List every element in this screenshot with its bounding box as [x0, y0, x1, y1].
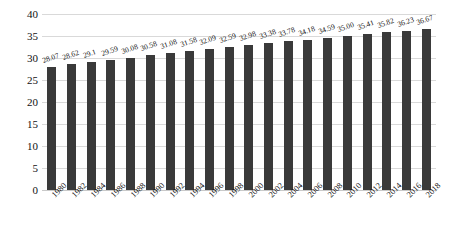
- bar: [47, 67, 56, 191]
- y-axis-tick: 25: [14, 75, 38, 86]
- y-axis-tick: 10: [14, 141, 38, 152]
- y-axis-tick: 15: [14, 119, 38, 130]
- bar-value-label: 35.82: [376, 17, 395, 30]
- bar-value-label: 31.58: [179, 36, 198, 49]
- bar-chart: 40 35 30 25 20 15 10 5 0 28.0728.6229.12…: [0, 0, 462, 232]
- x-label-slot: 2016: [397, 192, 417, 232]
- bar: [422, 29, 431, 190]
- bar: [67, 64, 76, 190]
- y-axis-tick: 5: [14, 163, 38, 174]
- x-label-slot: 2018: [416, 192, 436, 232]
- bar-slot: 30.08: [121, 14, 141, 190]
- bar-slot: 35.82: [377, 14, 397, 190]
- bar-slot: 28.07: [42, 14, 62, 190]
- x-label-slot: 2012: [357, 192, 377, 232]
- bar-value-label: 33.78: [278, 26, 297, 39]
- y-axis-tick: 30: [14, 53, 38, 64]
- x-label-slot: 1984: [81, 192, 101, 232]
- x-label-slot: 1982: [62, 192, 82, 232]
- bar: [402, 31, 411, 190]
- x-label-slot: 2014: [377, 192, 397, 232]
- x-label-slot: 2002: [259, 192, 279, 232]
- x-label-slot: 1980: [42, 192, 62, 232]
- x-label-slot: 1988: [121, 192, 141, 232]
- bar-slot: 33.38: [259, 14, 279, 190]
- y-axis-tick: 20: [14, 97, 38, 108]
- bar-value-label: 28.62: [61, 49, 80, 62]
- bar-value-label: 29.1: [82, 48, 97, 60]
- bar-slot: 35.41: [357, 14, 377, 190]
- bar-slot: 35.00: [338, 14, 358, 190]
- bar-value-label: 32.98: [238, 30, 257, 43]
- bar-value-label: 30.58: [140, 40, 159, 53]
- bar-slot: 29.1: [81, 14, 101, 190]
- bar-value-label: 34.59: [317, 23, 336, 36]
- bar-slot: 31.58: [180, 14, 200, 190]
- bar-value-label: 31.08: [160, 38, 179, 51]
- x-label-slot: 2006: [298, 192, 318, 232]
- bar: [382, 32, 391, 190]
- y-axis-tick: 35: [14, 31, 38, 42]
- bar-slot: 31.08: [160, 14, 180, 190]
- x-label-slot: 1998: [219, 192, 239, 232]
- bar: [225, 47, 234, 190]
- bar-value-label: 33.38: [258, 28, 277, 41]
- x-label-slot: 1990: [141, 192, 161, 232]
- bar-slot: 34.18: [298, 14, 318, 190]
- x-label-slot: 2004: [278, 192, 298, 232]
- bar-value-label: 34.18: [297, 24, 316, 37]
- bar-value-label: 32.59: [219, 31, 238, 44]
- x-label-slot: 2000: [239, 192, 259, 232]
- x-label-slot: 1996: [200, 192, 220, 232]
- y-axis-tick: 0: [14, 185, 38, 196]
- bar: [284, 41, 293, 190]
- bar: [185, 51, 194, 190]
- y-axis-tick: 40: [14, 9, 38, 20]
- bar-value-label: 35.00: [337, 21, 356, 34]
- bar: [264, 43, 273, 190]
- x-label-slot: 2010: [338, 192, 358, 232]
- bar-slot: 32.09: [200, 14, 220, 190]
- bar: [244, 45, 253, 190]
- plot-area: 28.0728.6229.129.5930.0830.5831.0831.583…: [42, 14, 436, 190]
- x-label-slot: 1992: [160, 192, 180, 232]
- bar: [126, 58, 135, 190]
- bar: [303, 40, 312, 190]
- bar-slot: 32.59: [219, 14, 239, 190]
- bar-value-label: 32.09: [199, 34, 218, 47]
- bar-value-label: 30.08: [120, 42, 139, 55]
- bar: [146, 55, 155, 190]
- bar: [166, 53, 175, 190]
- bar: [343, 36, 352, 190]
- bar-series: 28.0728.6229.129.5930.0830.5831.0831.583…: [42, 14, 436, 190]
- bar-value-label: 35.41: [357, 19, 376, 32]
- bar: [87, 62, 96, 190]
- bar-slot: 34.59: [318, 14, 338, 190]
- x-label-slot: 2008: [318, 192, 338, 232]
- bar-slot: 29.59: [101, 14, 121, 190]
- x-label-slot: 1994: [180, 192, 200, 232]
- bar-slot: 36.67: [416, 14, 436, 190]
- bar-slot: 32.98: [239, 14, 259, 190]
- bar-slot: 36.23: [397, 14, 417, 190]
- bar-value-label: 36.67: [416, 13, 435, 26]
- bar-value-label: 28.07: [41, 51, 60, 64]
- bar-slot: 30.58: [141, 14, 161, 190]
- bar-value-label: 36.23: [396, 15, 415, 28]
- x-label-slot: 1986: [101, 192, 121, 232]
- bar: [205, 49, 214, 190]
- bar-slot: 28.62: [62, 14, 82, 190]
- x-axis-tick-labels: 1980198219841986198819901992199419961998…: [42, 192, 436, 232]
- bar: [106, 60, 115, 190]
- bar: [323, 38, 332, 190]
- bar: [363, 34, 372, 190]
- y-axis-tick-labels: 40 35 30 25 20 15 10 5 0: [14, 14, 38, 190]
- bar-slot: 33.78: [278, 14, 298, 190]
- bar-value-label: 29.59: [100, 45, 119, 58]
